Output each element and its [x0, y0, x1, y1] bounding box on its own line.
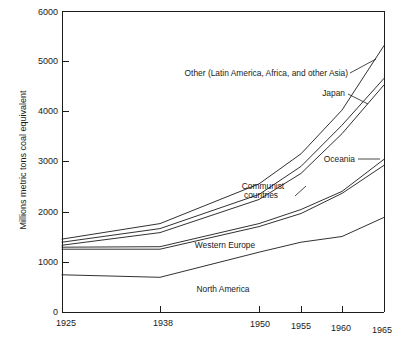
- series-label-communist-line2: countries: [244, 190, 278, 200]
- series-line-communist-countries: [62, 159, 384, 247]
- x-axis-ticks: [62, 306, 384, 312]
- chart-figure: 0 1000 2000 3000 4000 5000 6000 1925 193…: [0, 0, 402, 337]
- ytick-label-0: 0: [53, 307, 58, 317]
- xtick-label-1965: 1965: [372, 325, 392, 335]
- leader-line-other: [350, 59, 376, 73]
- xtick-label-1925: 1925: [56, 318, 76, 328]
- y-axis-tick-labels: 0 1000 2000 3000 4000 5000 6000: [38, 7, 58, 317]
- xtick-label-1950: 1950: [250, 319, 270, 329]
- series-label-oceania: Oceania: [324, 154, 356, 164]
- annotation-leaders: [295, 59, 380, 196]
- xtick-label-1960: 1960: [331, 323, 351, 333]
- ytick-label-1000: 1000: [38, 257, 58, 267]
- ytick-label-5000: 5000: [38, 56, 58, 66]
- ytick-label-2000: 2000: [38, 207, 58, 217]
- series-annotations: Other (Latin America, Africa, and other …: [185, 68, 356, 294]
- xtick-label-1938: 1938: [153, 318, 173, 328]
- series-label-western-europe: Western Europe: [195, 240, 256, 250]
- series-label-japan: Japan: [322, 88, 345, 98]
- series-line-oceania: [62, 85, 384, 245]
- xtick-label-1955: 1955: [291, 321, 311, 331]
- series-label-north-america: North America: [196, 284, 249, 294]
- y-axis-title: Millions metric tons coal equivalent: [18, 90, 28, 230]
- ytick-label-6000: 6000: [38, 7, 58, 17]
- y-axis-title-group: Millions metric tons coal equivalent: [18, 90, 28, 230]
- x-axis-tick-labels: 1925 1938 1950 1955 1960 1965: [56, 318, 392, 335]
- y-axis-ticks: [62, 11, 69, 312]
- leader-line-communist: [295, 186, 306, 196]
- energy-consumption-line-chart: 0 1000 2000 3000 4000 5000 6000 1925 193…: [0, 0, 402, 337]
- ytick-label-4000: 4000: [38, 106, 58, 116]
- series-label-other: Other (Latin America, Africa, and other …: [185, 68, 349, 78]
- ytick-label-3000: 3000: [38, 156, 58, 166]
